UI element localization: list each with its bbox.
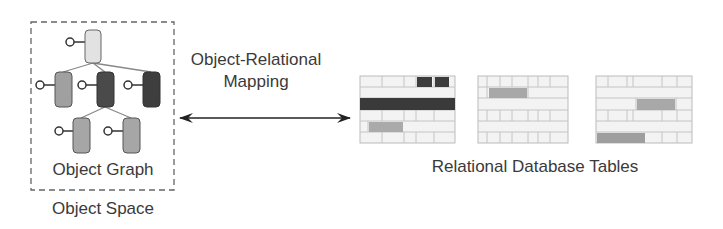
node-child-right xyxy=(124,72,160,107)
table-2 xyxy=(478,76,568,143)
interface-icon xyxy=(78,81,86,89)
node-grandchild-right xyxy=(104,118,140,153)
table-1 xyxy=(360,76,455,143)
object-graph-label: Object Graph xyxy=(37,160,169,180)
interface-icon xyxy=(104,127,112,135)
interface-icon xyxy=(55,127,63,135)
mapping-label: Object-Relational Mapping xyxy=(186,49,326,93)
mapping-label-line1: Object-Relational xyxy=(186,49,326,71)
relational-tables-label: Relational Database Tables xyxy=(400,157,670,177)
node-grandchild-left xyxy=(55,118,90,153)
node-child-center xyxy=(78,72,114,107)
diagram-canvas xyxy=(0,0,723,229)
interface-icon xyxy=(66,38,74,46)
table-3 xyxy=(596,76,692,143)
interface-icon xyxy=(36,81,44,89)
node-child-left xyxy=(36,72,72,107)
mapping-label-line2: Mapping xyxy=(186,71,326,93)
node-root xyxy=(66,30,101,63)
interface-icon xyxy=(124,81,132,89)
object-space-label: Object Space xyxy=(30,199,176,219)
